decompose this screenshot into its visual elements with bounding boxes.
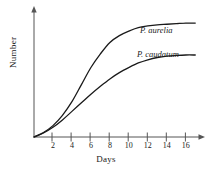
curve-p-aurelia bbox=[34, 23, 195, 137]
x-tick-label-12: 12 bbox=[140, 141, 156, 150]
curve-p-caudatum bbox=[34, 55, 195, 137]
series-label-p-caudatum: P. caudatum bbox=[137, 49, 179, 59]
series-label-p-aurelia: P. aurelia bbox=[140, 25, 173, 35]
x-tick-label-14: 14 bbox=[159, 141, 175, 150]
x-tick-label-4: 4 bbox=[64, 141, 80, 150]
x-tick-label-16: 16 bbox=[178, 141, 194, 150]
population-growth-chart: 246810121416 Number Days P. aurelia P. c… bbox=[0, 0, 212, 174]
data-series-group bbox=[34, 23, 195, 137]
y-axis bbox=[31, 6, 36, 137]
x-tick-label-10: 10 bbox=[121, 141, 137, 150]
x-tick-label-8: 8 bbox=[102, 141, 118, 150]
x-tick-label-2: 2 bbox=[45, 141, 61, 150]
y-axis-title: Number bbox=[8, 54, 18, 68]
x-axis-title: Days bbox=[0, 154, 212, 164]
x-axis bbox=[34, 134, 205, 139]
x-tick-label-6: 6 bbox=[83, 141, 99, 150]
